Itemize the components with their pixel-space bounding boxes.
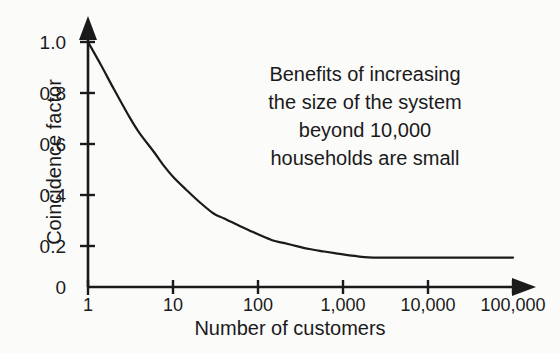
y-axis-label: Coincidence factor	[44, 62, 64, 262]
x-axis-arrow-icon	[512, 278, 536, 296]
y-tick-label-0: 0	[14, 278, 66, 297]
annotation-line-2: the size of the system	[215, 88, 515, 116]
chart-figure: 1.0 0.8 0.6 0.4 0.2 0 1 10 100 1,000 10,…	[0, 0, 560, 353]
y-tick-label-1.0: 1.0	[14, 33, 66, 52]
x-tick-label-10: 10	[153, 296, 193, 314]
y-axis-arrow-icon	[79, 16, 97, 40]
x-tick-label-1000: 1,000	[310, 296, 376, 314]
x-tick-label-100000: 100,000	[468, 296, 558, 314]
annotation-line-3: beyond 10,000	[215, 116, 515, 144]
x-tick-label-1: 1	[68, 296, 108, 314]
annotation-line-1: Benefits of increasing	[215, 60, 515, 88]
x-tick-label-10000: 10,000	[390, 296, 466, 314]
annotation-benefits-note: Benefits of increasing the size of the s…	[215, 60, 515, 172]
x-axis-label: Number of customers	[120, 318, 460, 338]
x-tick-label-100: 100	[233, 296, 283, 314]
annotation-line-4: households are small	[215, 144, 515, 172]
